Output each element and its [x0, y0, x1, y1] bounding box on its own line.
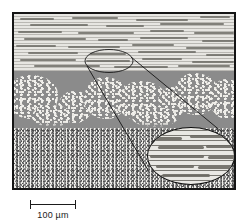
- inset-lamination-streak: [158, 146, 204, 149]
- callout-inset-ellipse: [147, 127, 235, 185]
- scale-bar-rule: [30, 204, 76, 205]
- inset-lamination-streak: [152, 137, 182, 140]
- micrograph-frame: [12, 12, 236, 190]
- scale-bar-tick-right: [75, 200, 76, 209]
- scale-bar-label: 100 µm: [12, 210, 94, 220]
- micrograph-figure: 100 µm: [0, 0, 249, 224]
- inset-lamination-streak: [190, 135, 230, 138]
- scale-bar-tick-left: [30, 200, 31, 209]
- inset-lamination-streak: [206, 145, 232, 148]
- inset-lamination-streak: [162, 174, 210, 177]
- scale-bar: [30, 200, 76, 209]
- inset-lamination-streak: [156, 165, 194, 168]
- inset-lamination-streak: [150, 155, 204, 158]
- callout-source-ellipse: [85, 50, 133, 73]
- callout-connector-line-left: [87, 66, 148, 170]
- callout-connector-line-right: [131, 57, 222, 132]
- inset-lamination-streak: [198, 166, 232, 169]
- inset-lamination-streak: [208, 156, 235, 159]
